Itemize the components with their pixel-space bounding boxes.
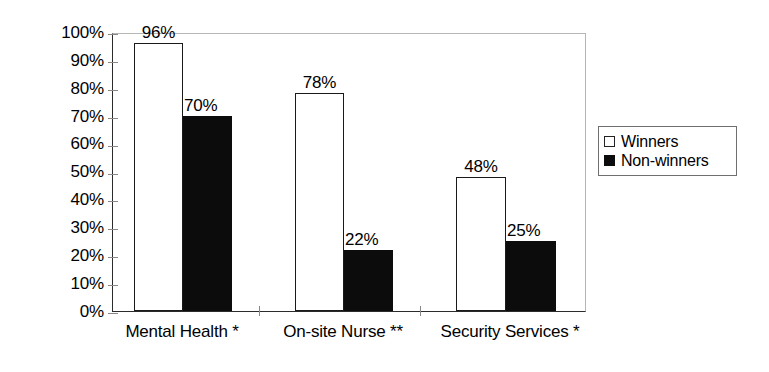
y-axis-tick-mark: [108, 229, 118, 230]
bar-value-label: 22%: [345, 231, 378, 249]
x-axis-label-on-site-nurse: On-site Nurse **: [263, 322, 423, 342]
bar-value-label: 70%: [184, 97, 217, 115]
bar-winners-mental-health: 96%: [134, 43, 183, 311]
bar-value-label: 48%: [464, 158, 497, 176]
y-tick-label: 90%: [20, 52, 104, 69]
y-tick-label: 10%: [20, 275, 104, 292]
y-axis-tick-mark: [108, 146, 118, 147]
bar-value-label: 96%: [142, 24, 175, 42]
y-tick-label: 30%: [20, 219, 104, 236]
y-axis-tick-labels: 100% 90% 80% 70% 60% 50% 40% 30% 20% 10%…: [20, 0, 104, 372]
legend-label: Winners: [621, 133, 678, 150]
legend-item-non-winners: Non-winners: [604, 151, 736, 170]
y-axis-tick-mark: [108, 90, 118, 91]
y-axis-tick-mark: [108, 201, 118, 202]
y-axis-tick-mark: [108, 313, 118, 314]
bar-nonwinners-on-site-nurse: 22%: [344, 250, 393, 311]
bar-winners-on-site-nurse: 78%: [295, 93, 344, 311]
white-square-icon: [604, 136, 615, 147]
legend-item-winners: Winners: [604, 132, 736, 151]
y-tick-label: 0%: [20, 303, 104, 320]
y-axis-tick-mark: [108, 285, 118, 286]
y-tick-label: 60%: [20, 135, 104, 152]
legend-label: Non-winners: [621, 152, 709, 169]
x-axis-category-labels: Mental Health * On-site Nurse ** Securit…: [112, 322, 586, 352]
y-axis-tick-mark: [108, 257, 118, 258]
bar-value-label: 25%: [507, 222, 540, 240]
y-axis-tick-mark: [108, 62, 118, 63]
x-axis-label-mental-health: Mental Health *: [102, 322, 262, 342]
bar-value-label: 78%: [303, 74, 336, 92]
y-axis-tick-mark: [108, 34, 118, 35]
black-square-icon: [604, 155, 615, 166]
y-axis-tick-mark: [108, 174, 118, 175]
y-tick-label: 20%: [20, 247, 104, 264]
y-tick-label: 70%: [20, 108, 104, 125]
legend: Winners Non-winners: [598, 126, 737, 176]
y-tick-label: 100%: [20, 24, 104, 41]
x-axis-tick-mark: [259, 306, 260, 316]
bar-chart: 100% 90% 80% 70% 60% 50% 40% 30% 20% 10%…: [0, 0, 769, 372]
bar-nonwinners-mental-health: 70%: [183, 116, 232, 311]
y-tick-label: 40%: [20, 191, 104, 208]
bar-nonwinners-security-services: 25%: [506, 241, 556, 311]
bar-winners-security-services: 48%: [456, 177, 506, 311]
x-axis-label-security-services: Security Services *: [424, 322, 596, 342]
plot-area: 96% 70% 78% 22% 48% 25%: [112, 33, 586, 312]
y-tick-label: 50%: [20, 163, 104, 180]
x-axis-tick-mark: [420, 306, 421, 316]
y-tick-label: 80%: [20, 80, 104, 97]
y-axis-tick-mark: [108, 118, 118, 119]
